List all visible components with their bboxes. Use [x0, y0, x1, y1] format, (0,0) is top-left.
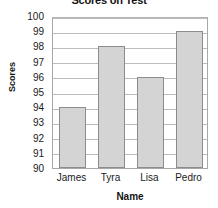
y-tick-label: 95	[33, 88, 44, 98]
y-tick-label: 91	[33, 149, 44, 159]
bar-james	[59, 107, 86, 168]
y-tick-label: 94	[33, 103, 44, 113]
plot-area	[52, 17, 208, 169]
x-tick-label-james: James	[52, 172, 91, 184]
x-tick-label-pedro: Pedro	[169, 172, 208, 184]
y-tick-label: 99	[33, 27, 44, 37]
x-tick-label-lisa: Lisa	[130, 172, 169, 184]
y-axis-tick-labels: 10099989796959493929190	[0, 17, 48, 169]
x-axis-title: Name	[52, 191, 208, 202]
y-tick-label: 92	[33, 134, 44, 144]
bar-series	[53, 18, 207, 168]
bar-tyra	[98, 46, 125, 168]
y-tick-label: 97	[33, 58, 44, 68]
y-tick-label: 93	[33, 118, 44, 128]
bar-lisa	[137, 77, 164, 168]
bar-chart: Scores on Test Scores 100999897969594939…	[0, 0, 218, 208]
y-tick-label: 100	[27, 12, 44, 22]
y-tick-label: 96	[33, 73, 44, 83]
y-tick-label: 90	[33, 164, 44, 174]
x-axis-tick-labels: JamesTyraLisaPedro	[52, 172, 208, 188]
bar-pedro	[176, 31, 203, 168]
chart-title: Scores on Test	[0, 0, 218, 6]
x-tick-label-tyra: Tyra	[91, 172, 130, 184]
y-tick-label: 98	[33, 42, 44, 52]
